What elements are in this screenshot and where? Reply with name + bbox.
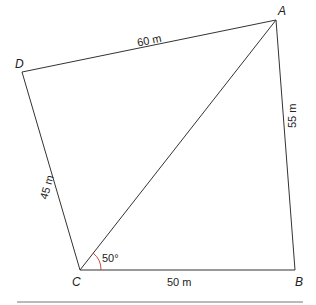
angle-label-c: 50° [102,252,119,264]
diagonal-ca [80,20,276,270]
quadrilateral-diagram: A B C D 60 m 55 m 45 m 50 m 50° [0,0,316,305]
edge-label-cb: 50 m [167,276,191,288]
vertex-label-a: A [277,4,286,18]
edge-cd [22,72,80,270]
vertex-label-c: C [72,275,81,289]
edge-label-cd: 45 m [37,174,55,201]
vertex-label-b: B [295,275,303,289]
vertex-label-d: D [15,57,24,71]
edge-label-da: 60 m [136,32,162,49]
angle-arc-c [93,253,101,270]
edge-ab [276,20,295,270]
edge-label-ab: 55 m [286,104,298,128]
